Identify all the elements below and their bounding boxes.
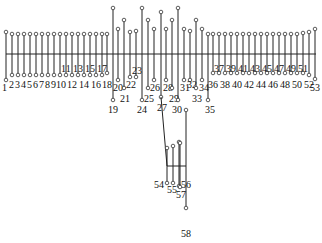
node-label: 24 bbox=[137, 104, 147, 115]
node-top-circle bbox=[295, 32, 299, 36]
node-bottom-circle bbox=[34, 73, 38, 77]
node-label: 44 bbox=[256, 79, 266, 90]
node-top-circle bbox=[182, 27, 186, 31]
node-label: 33 bbox=[192, 93, 202, 104]
node-label: 30 bbox=[172, 104, 182, 115]
node-label: 51 bbox=[298, 63, 308, 74]
node-label: 42 bbox=[244, 79, 254, 90]
branch-40: 40 bbox=[232, 32, 242, 90]
node-label: 16 bbox=[91, 79, 101, 90]
node-bottom-circle bbox=[40, 73, 44, 77]
node-bottom-circle bbox=[22, 73, 26, 77]
node-label: 10 bbox=[56, 79, 66, 90]
node-bottom-circle bbox=[16, 73, 20, 77]
node-bottom-circle bbox=[313, 77, 317, 81]
node-label: 40 bbox=[232, 79, 242, 90]
branch-3: 3 bbox=[15, 32, 20, 90]
subtree-group: 5455565758 bbox=[154, 97, 191, 239]
node-top-circle bbox=[194, 18, 198, 22]
node-58-circle bbox=[184, 206, 188, 210]
node-top-circle bbox=[70, 32, 74, 36]
node-top-circle bbox=[10, 32, 14, 36]
node-top-circle bbox=[52, 32, 56, 36]
node-top-circle bbox=[307, 30, 311, 34]
node-top-circle bbox=[152, 27, 156, 31]
node-bottom-circle bbox=[206, 98, 210, 102]
node-label: 35 bbox=[205, 104, 215, 115]
node-top-circle bbox=[88, 32, 92, 36]
branch-26: 26 bbox=[150, 27, 160, 93]
node-top-circle bbox=[28, 32, 32, 36]
network-diagram: 1234567891011121314151617181920212223242… bbox=[0, 0, 322, 243]
node-bottom-circle bbox=[52, 73, 56, 77]
node-top-circle bbox=[211, 32, 215, 36]
branch-36: 36 bbox=[208, 32, 218, 90]
node-top-circle bbox=[76, 32, 80, 36]
node-top-circle bbox=[170, 18, 174, 22]
node-bottom-circle bbox=[105, 71, 109, 75]
node-label: 15 bbox=[85, 63, 95, 74]
node-label: 7 bbox=[39, 79, 44, 90]
node-top-circle bbox=[188, 29, 192, 33]
node-top-circle bbox=[289, 32, 293, 36]
branch-56: 56 bbox=[177, 140, 191, 190]
node-top-circle bbox=[82, 32, 86, 36]
branch-8: 8 bbox=[45, 32, 50, 90]
node-top-circle bbox=[100, 32, 104, 36]
node-label: 50 bbox=[292, 79, 302, 90]
branch-18: 18 bbox=[102, 32, 112, 90]
node-top-circle bbox=[176, 6, 180, 10]
node-label: 3 bbox=[15, 79, 20, 90]
node-label: 47 bbox=[274, 63, 284, 74]
node-top-circle bbox=[34, 32, 38, 36]
node-label: 14 bbox=[79, 79, 89, 90]
node-label: 5 bbox=[27, 79, 32, 90]
node-label: 48 bbox=[280, 79, 290, 90]
node-label: 6 bbox=[33, 79, 38, 90]
branch-50: 50 bbox=[292, 32, 302, 90]
node-top-circle bbox=[111, 6, 115, 10]
node-label: 12 bbox=[67, 79, 77, 90]
node-top-circle bbox=[241, 32, 245, 36]
branch-19: 19 bbox=[108, 6, 118, 115]
node-bottom-circle bbox=[194, 86, 198, 90]
node-bottom-circle bbox=[111, 98, 115, 102]
node-label: 41 bbox=[238, 63, 248, 74]
node-label: 58 bbox=[181, 228, 191, 239]
branch-1: 1 bbox=[2, 30, 8, 93]
node-30-circle bbox=[184, 108, 188, 112]
node-top-circle bbox=[165, 146, 169, 150]
node-top-circle bbox=[313, 27, 317, 31]
node-label: 25 bbox=[144, 93, 154, 104]
branch-48: 48 bbox=[280, 32, 290, 90]
node-top-circle bbox=[301, 31, 305, 35]
node-top-circle bbox=[16, 32, 20, 36]
node-top-circle bbox=[178, 141, 182, 145]
branch-20: 20 bbox=[113, 27, 123, 93]
node-top-circle bbox=[122, 18, 126, 22]
node-top-circle bbox=[259, 32, 263, 36]
node-label: 22 bbox=[126, 79, 136, 90]
node-label: 36 bbox=[208, 79, 218, 90]
node-label: 21 bbox=[120, 93, 130, 104]
node-bottom-circle bbox=[176, 98, 180, 102]
branch-12: 12 bbox=[67, 32, 77, 90]
node-top-circle bbox=[22, 32, 26, 36]
node-top-circle bbox=[283, 32, 287, 36]
node-top-circle bbox=[134, 29, 138, 33]
branch-4: 4 bbox=[21, 32, 26, 90]
node-top-circle bbox=[58, 32, 62, 36]
node-label: 46 bbox=[268, 79, 278, 90]
node-label: 23 bbox=[132, 65, 142, 76]
node-bottom-circle bbox=[28, 73, 32, 77]
node-label: 43 bbox=[250, 63, 260, 74]
branch-51: 51 bbox=[298, 31, 308, 75]
node-label: 37 bbox=[214, 63, 224, 74]
node-top-circle bbox=[105, 32, 109, 36]
branch-55: 55 bbox=[167, 144, 177, 195]
node-top-circle bbox=[94, 32, 98, 36]
branch-10: 10 bbox=[56, 32, 66, 90]
node-top-circle bbox=[271, 32, 275, 36]
node-top-circle bbox=[217, 32, 221, 36]
node-top-circle bbox=[164, 27, 168, 31]
